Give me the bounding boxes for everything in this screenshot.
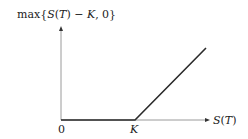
x-axis-label: S(T) [213, 114, 236, 127]
y-axis-arrow-icon [59, 26, 63, 31]
origin-label: 0 [58, 123, 65, 136]
payoff-line [61, 48, 206, 120]
y-axis-label: max{S(T) − K, 0} [17, 8, 116, 21]
strike-label: K [129, 123, 139, 136]
x-axis-arrow-icon [205, 118, 210, 122]
payoff-diagram: max{S(T) − K, 0} 0 K S(T) [0, 0, 248, 139]
